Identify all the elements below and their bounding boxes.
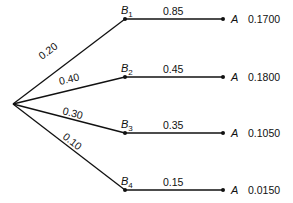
prob-label-b2: 0.40: [58, 70, 81, 87]
node-a-dot: [221, 131, 225, 135]
labels: B10.200.85A0.1700B20.400.45A0.1800B30.30…: [36, 4, 280, 196]
joint-prob-value: 0.0150: [248, 184, 280, 196]
joint-prob-value: 0.1800: [248, 71, 280, 83]
node-label-a: A: [230, 71, 238, 83]
prob-label-a-given-b3: 0.35: [163, 119, 184, 131]
node-label-b2: B2: [121, 62, 133, 77]
probability-tree: B10.200.85A0.1700B20.400.45A0.1800B30.30…: [0, 0, 293, 203]
node-label-b1: B1: [121, 4, 133, 19]
prob-label-b1: 0.20: [36, 40, 60, 62]
node-label-a: A: [230, 127, 238, 139]
node-label-a: A: [230, 184, 238, 196]
prob-label-a-given-b1: 0.85: [163, 5, 184, 17]
node-label-a: A: [230, 13, 238, 25]
node-a-dot: [221, 75, 225, 79]
prob-label-a-given-b4: 0.15: [163, 176, 184, 188]
node-a-dot: [221, 17, 225, 21]
prob-label-b3: 0.30: [61, 104, 84, 121]
joint-prob-value: 0.1050: [248, 127, 280, 139]
prob-label-a-given-b2: 0.45: [163, 63, 184, 75]
node-label-b3: B3: [121, 118, 133, 133]
branch-root-b1: [13, 19, 125, 104]
joint-prob-value: 0.1700: [248, 13, 280, 25]
node-a-dot: [221, 188, 225, 192]
branches: [13, 17, 225, 192]
